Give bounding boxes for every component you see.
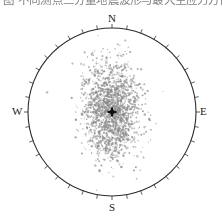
scatter-point xyxy=(94,50,96,52)
scatter-point xyxy=(116,65,117,66)
scatter-point xyxy=(117,124,119,126)
degree-tick xyxy=(36,68,39,70)
scatter-point xyxy=(114,104,115,105)
scatter-point xyxy=(117,140,118,141)
scatter-point xyxy=(99,125,100,126)
scatter-point xyxy=(125,108,127,110)
scatter-point xyxy=(113,102,114,103)
scatter-point xyxy=(95,92,97,94)
scatter-point xyxy=(121,75,122,76)
scatter-point xyxy=(138,140,139,141)
degree-tick xyxy=(166,45,169,48)
scatter-point xyxy=(138,108,140,110)
scatter-point xyxy=(114,48,116,50)
degree-tick xyxy=(45,166,48,169)
scatter-point xyxy=(150,114,151,115)
scatter-point xyxy=(140,169,141,170)
scatter-point xyxy=(112,137,114,139)
scatter-point xyxy=(127,76,128,77)
scatter-point xyxy=(129,51,131,53)
scatter-point xyxy=(81,92,83,94)
scatter-point xyxy=(130,123,132,125)
scatter-point xyxy=(107,100,109,102)
scatter-point xyxy=(121,72,123,74)
scatter-point xyxy=(122,136,123,137)
scatter-point xyxy=(141,95,143,97)
scatter-point xyxy=(111,74,113,76)
scatter-point xyxy=(132,115,133,116)
scatter-point xyxy=(114,143,116,145)
scatter-point xyxy=(125,141,127,143)
scatter-point xyxy=(117,43,119,45)
scatter-point xyxy=(103,82,105,84)
scatter-point xyxy=(82,93,84,95)
scatter-point xyxy=(115,147,117,149)
scatter-point xyxy=(125,135,127,137)
scatter-point xyxy=(97,143,99,145)
scatter-point xyxy=(112,125,114,127)
scatter-point xyxy=(95,65,96,66)
scatter-point xyxy=(92,140,94,142)
scatter-point xyxy=(119,110,121,112)
scatter-point xyxy=(127,106,128,107)
scatter-point xyxy=(124,145,126,147)
scatter-point xyxy=(81,84,83,86)
scatter-point xyxy=(94,104,96,106)
scatter-point xyxy=(112,122,114,124)
scatter-point xyxy=(108,105,110,107)
scatter-point xyxy=(104,64,105,65)
scatter-point xyxy=(92,92,94,94)
scatter-point xyxy=(113,66,114,67)
degree-tick xyxy=(25,97,29,98)
scatter-point xyxy=(117,91,118,92)
scatter-point xyxy=(135,104,136,105)
scatter-point xyxy=(97,69,99,71)
scatter-point xyxy=(114,128,116,130)
scatter-point xyxy=(143,133,145,135)
scatter-point xyxy=(111,167,112,168)
scatter-point xyxy=(143,83,145,85)
scatter-point xyxy=(146,90,148,92)
scatter-point xyxy=(87,111,89,113)
scatter-point xyxy=(95,126,97,128)
scatter-point xyxy=(126,89,128,91)
scatter-point xyxy=(126,70,128,72)
scatter-point xyxy=(105,88,107,90)
scatter-point xyxy=(110,138,112,140)
scatter-point xyxy=(120,166,122,168)
scatter-point xyxy=(112,85,114,87)
scatter-point xyxy=(119,150,121,152)
scatter-point xyxy=(116,98,118,100)
scatter-point xyxy=(123,103,125,105)
scatter-point xyxy=(75,111,77,113)
scatter-point xyxy=(82,110,84,112)
scatter-point xyxy=(128,61,129,62)
scatter-point xyxy=(91,101,93,103)
compass-label-west: W xyxy=(12,106,22,117)
scatter-point xyxy=(97,63,98,64)
scatter-point xyxy=(133,155,135,157)
scatter-point xyxy=(118,80,119,81)
scatter-point xyxy=(142,88,144,90)
scatter-point xyxy=(107,95,108,96)
scatter-point xyxy=(101,58,103,60)
scatter-point xyxy=(127,128,129,130)
scatter-point xyxy=(92,81,93,82)
scatter-point xyxy=(97,85,99,87)
scatter-point xyxy=(83,147,84,148)
scatter-point xyxy=(133,122,135,124)
scatter-point xyxy=(109,64,110,65)
scatter-point xyxy=(109,145,111,147)
scatter-point xyxy=(144,93,146,95)
scatter-point xyxy=(130,142,131,143)
scatter-point xyxy=(85,133,87,135)
scatter-point xyxy=(116,72,118,74)
scatter-point xyxy=(94,101,96,103)
scatter-point xyxy=(125,131,126,132)
scatter-point xyxy=(101,145,103,147)
scatter-point xyxy=(130,83,132,85)
scatter-point xyxy=(135,121,137,123)
scatter-point xyxy=(106,132,108,134)
scatter-point xyxy=(84,106,85,107)
scatter-point xyxy=(98,170,100,172)
